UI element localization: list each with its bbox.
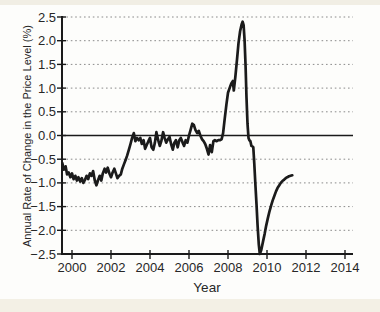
x-tick-label: 2010 — [253, 260, 282, 275]
x-tick-label: 2014 — [331, 260, 360, 275]
y-tick-label: 0.5 — [38, 104, 56, 119]
x-tick-label: 2000 — [58, 260, 87, 275]
y-tick-label: 2.0 — [38, 33, 56, 48]
annual-rate-of-change-in-price-level-line — [62, 22, 292, 254]
y-axis-title: Annual Rate of Change in the Price Level… — [21, 25, 33, 247]
y-tick-label: 0.0 — [38, 128, 56, 143]
y-tick-label: −1.5 — [30, 199, 56, 214]
gridlines — [62, 17, 353, 230]
y-tick-label: 2.5 — [38, 10, 56, 25]
y-tick-label: −2.5 — [30, 247, 56, 262]
axes — [57, 16, 353, 259]
x-tick-label: 2006 — [175, 260, 204, 275]
x-tick-label: 2004 — [136, 260, 165, 275]
data-series — [62, 22, 292, 254]
x-tick-label: 2008 — [214, 260, 243, 275]
x-tick-label: 2012 — [292, 260, 321, 275]
y-tick-label: 1.5 — [38, 57, 56, 72]
y-tick-label: 1.0 — [38, 81, 56, 96]
y-tick-label: −2.0 — [30, 223, 56, 238]
x-tick-label: 2002 — [97, 260, 126, 275]
y-tick-label: −1.0 — [30, 175, 56, 190]
price-level-line-chart: 2.52.01.51.00.50.0−0.5−1.0−1.5−2.0−2.520… — [0, 0, 380, 312]
y-tick-label: −0.5 — [30, 152, 56, 167]
tick-labels: 2.52.01.51.00.50.0−0.5−1.0−1.5−2.0−2.520… — [30, 10, 359, 276]
x-axis-title: Year — [193, 280, 221, 295]
